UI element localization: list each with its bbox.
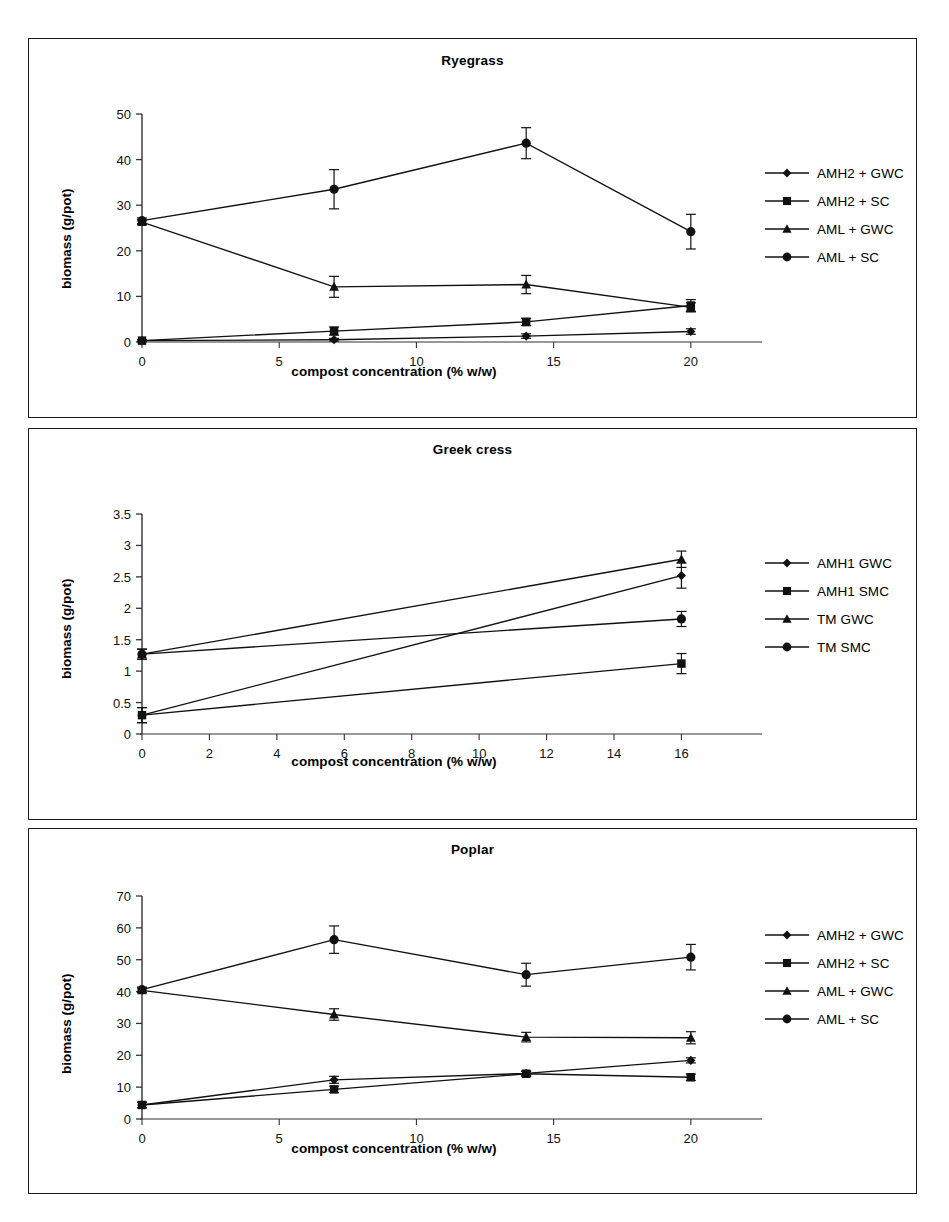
svg-text:0: 0 (124, 727, 131, 742)
legend-item-label: AML + GWC (817, 984, 894, 999)
svg-text:1.5: 1.5 (113, 633, 131, 648)
legend-item-label: AML + GWC (817, 222, 894, 237)
legend-marker-circle-icon (764, 1012, 810, 1026)
legend-item-aml-sc: AML + SC (764, 243, 904, 271)
x-axis-title-ryegrass: compost concentration (% w/w) (89, 364, 699, 379)
svg-text:70: 70 (117, 889, 131, 904)
legend-item-label: AMH2 + SC (817, 194, 890, 209)
x-axis-title-greekcress: compost concentration (% w/w) (89, 754, 699, 769)
legend-item-label: AMH2 + GWC (817, 166, 904, 181)
legend-item-tm-gwc: TM GWC (764, 605, 892, 633)
legend-marker-diamond-icon (764, 166, 810, 180)
svg-text:3: 3 (124, 538, 131, 553)
legend-marker-diamond-icon (764, 556, 810, 570)
legend-poplar: AMH2 + GWCAMH2 + SCAML + GWCAML + SC (764, 921, 904, 1033)
svg-text:30: 30 (117, 198, 131, 213)
legend-item-label: AMH1 GWC (817, 556, 892, 571)
svg-text:0: 0 (124, 335, 131, 350)
legend-item-tm-smc: TM SMC (764, 633, 892, 661)
svg-text:3.5: 3.5 (113, 507, 131, 522)
svg-text:30: 30 (117, 1016, 131, 1031)
legend-marker-triangle-icon (764, 984, 810, 998)
legend-item-aml-gwc: AML + GWC (764, 215, 904, 243)
figure-root: Ryegrass 0102030405005101520 AMH2 + GWCA… (0, 0, 949, 1222)
panel-ryegrass: Ryegrass 0102030405005101520 AMH2 + GWCA… (28, 38, 917, 418)
legend-item-amh2-sc: AMH2 + SC (764, 949, 904, 977)
legend-item-aml-sc: AML + SC (764, 1005, 904, 1033)
legend-item-label: AML + SC (817, 1012, 879, 1027)
legend-item-amh1-smc: AMH1 SMC (764, 577, 892, 605)
legend-marker-square-icon (764, 956, 810, 970)
legend-marker-circle-icon (764, 250, 810, 264)
legend-item-amh2-sc: AMH2 + SC (764, 187, 904, 215)
svg-text:10: 10 (117, 1080, 131, 1095)
y-axis-title-poplar: biomass (g/pot) (59, 974, 74, 1075)
legend-item-label: AML + SC (817, 250, 879, 265)
svg-text:1: 1 (124, 664, 131, 679)
y-axis-title-greekcress: biomass (g/pot) (59, 579, 74, 680)
svg-text:20: 20 (117, 1048, 131, 1063)
legend-item-label: AMH2 + SC (817, 956, 890, 971)
svg-text:2: 2 (124, 601, 131, 616)
panel-poplar: Poplar 01020304050607005101520 AMH2 + GW… (28, 828, 917, 1194)
svg-text:10: 10 (117, 289, 131, 304)
legend-marker-square-icon (764, 584, 810, 598)
svg-text:50: 50 (117, 107, 131, 122)
svg-text:40: 40 (117, 985, 131, 1000)
legend-greekcress: AMH1 GWCAMH1 SMCTM GWCTM SMC (764, 549, 892, 661)
svg-text:60: 60 (117, 921, 131, 936)
legend-item-label: AMH1 SMC (817, 584, 889, 599)
x-axis-title-poplar: compost concentration (% w/w) (89, 1141, 699, 1156)
svg-text:0.5: 0.5 (113, 696, 131, 711)
y-axis-title-ryegrass: biomass (g/pot) (59, 189, 74, 290)
legend-marker-triangle-icon (764, 222, 810, 236)
legend-item-aml-gwc: AML + GWC (764, 977, 904, 1005)
svg-text:40: 40 (117, 153, 131, 168)
svg-text:0: 0 (124, 1112, 131, 1127)
legend-item-label: TM GWC (817, 612, 874, 627)
legend-marker-square-icon (764, 194, 810, 208)
legend-item-amh2-gwc: AMH2 + GWC (764, 159, 904, 187)
legend-marker-circle-icon (764, 640, 810, 654)
panel-greekcress: Greek cress 00.511.522.533.5024681012141… (28, 428, 917, 820)
legend-item-label: TM SMC (817, 640, 871, 655)
svg-text:2.5: 2.5 (113, 570, 131, 585)
legend-item-amh2-gwc: AMH2 + GWC (764, 921, 904, 949)
legend-marker-triangle-icon (764, 612, 810, 626)
svg-text:50: 50 (117, 953, 131, 968)
legend-ryegrass: AMH2 + GWCAMH2 + SCAML + GWCAML + SC (764, 159, 904, 271)
legend-item-amh1-gwc: AMH1 GWC (764, 549, 892, 577)
legend-marker-diamond-icon (764, 928, 810, 942)
legend-item-label: AMH2 + GWC (817, 928, 904, 943)
svg-text:20: 20 (117, 244, 131, 259)
